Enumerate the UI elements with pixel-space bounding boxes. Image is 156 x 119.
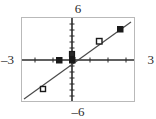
data-point bbox=[118, 27, 124, 33]
graph-screenshot: 6 –6 –3 3 bbox=[0, 0, 156, 119]
data-point bbox=[57, 58, 63, 64]
data-point bbox=[41, 87, 46, 92]
data-point bbox=[70, 58, 76, 64]
y-axis-min-label: –6 bbox=[0, 105, 156, 118]
data-point bbox=[97, 39, 103, 45]
x-axis-min-label: –3 bbox=[1, 53, 14, 66]
data-point bbox=[70, 52, 75, 57]
graph-canvas bbox=[0, 0, 156, 119]
coordinate-plane-figure: 6 –6 –3 3 bbox=[0, 0, 156, 119]
x-axis-max-label: 3 bbox=[148, 53, 155, 66]
y-axis-max-label: 6 bbox=[0, 2, 156, 15]
